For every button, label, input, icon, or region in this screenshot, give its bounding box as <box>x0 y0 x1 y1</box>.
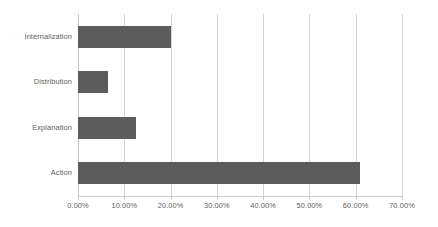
category-label: Distribution <box>0 77 72 87</box>
category-label: Action <box>0 168 72 178</box>
bar <box>78 26 171 48</box>
axis-tick <box>171 196 172 200</box>
value-axis: 0.00%10.00%20.00%30.00%40.00%50.00%60.00… <box>0 201 438 215</box>
axis-tick <box>124 196 125 200</box>
axis-tick <box>217 196 218 200</box>
axis-tick <box>309 196 310 200</box>
bar <box>78 71 108 93</box>
gridline <box>402 14 403 196</box>
plot-area <box>78 14 402 196</box>
bar <box>78 162 360 184</box>
category-label: Internalization <box>0 32 72 42</box>
value-axis-label: 70.00% <box>372 201 432 211</box>
category-label: Explanation <box>0 123 72 133</box>
bar-chart: Internalization Distribution Explanation… <box>0 0 438 227</box>
axis-tick <box>78 196 79 200</box>
bar <box>78 117 136 139</box>
category-axis: Internalization Distribution Explanation… <box>0 14 72 196</box>
axis-baseline <box>78 196 403 197</box>
axis-tick <box>402 196 403 200</box>
axis-tick <box>263 196 264 200</box>
axis-tick <box>356 196 357 200</box>
